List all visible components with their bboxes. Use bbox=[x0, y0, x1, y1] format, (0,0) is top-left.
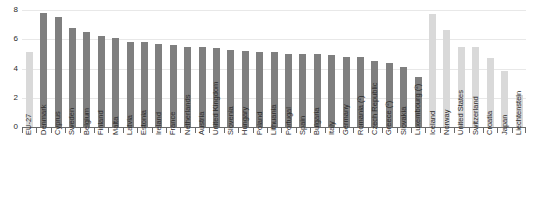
x-tick-label: Slovenia bbox=[227, 106, 235, 135]
x-axis-slot: Czech Republic bbox=[368, 128, 382, 206]
x-tick-label: Portugal bbox=[285, 107, 293, 135]
bar-slot bbox=[325, 10, 339, 127]
x-tick-label: Netherlands bbox=[184, 95, 192, 135]
x-axis-slot: Ireland bbox=[152, 128, 166, 206]
x-tick-label: Poland bbox=[256, 112, 264, 135]
x-axis-slot: Romania (²) bbox=[353, 128, 367, 206]
x-axis-slot: Finland bbox=[94, 128, 108, 206]
x-axis-slot: Hungary bbox=[238, 128, 252, 206]
x-tick-label: Hungary bbox=[242, 107, 250, 135]
bar-slot bbox=[51, 10, 65, 127]
x-tick bbox=[253, 128, 254, 133]
x-tick bbox=[325, 128, 326, 133]
x-tick bbox=[440, 128, 441, 133]
x-tick-label: Greece (²) bbox=[386, 101, 394, 135]
bar-chart: 02468 EU-27DenmarkCyprusSwedenBelgiumFin… bbox=[0, 0, 534, 206]
bar bbox=[112, 38, 119, 127]
x-tick-label: Latvia bbox=[126, 115, 134, 135]
x-tick bbox=[267, 128, 268, 133]
x-axis-slot: Malta bbox=[108, 128, 122, 206]
x-tick bbox=[180, 128, 181, 133]
x-tick bbox=[137, 128, 138, 133]
x-axis: EU-27DenmarkCyprusSwedenBelgiumFinlandMa… bbox=[22, 128, 526, 206]
x-tick-label: Bulgaria bbox=[314, 107, 322, 135]
x-tick bbox=[454, 128, 455, 133]
x-axis-slot: Austria bbox=[195, 128, 209, 206]
x-axis-slot: France bbox=[166, 128, 180, 206]
x-tick-label: Belgium bbox=[83, 108, 91, 135]
x-axis-slot: Switzerland bbox=[469, 128, 483, 206]
bar-slot bbox=[108, 10, 122, 127]
x-axis-slot: Greece (²) bbox=[382, 128, 396, 206]
x-tick bbox=[238, 128, 239, 133]
x-tick bbox=[411, 128, 412, 133]
x-axis-slot: Sweden bbox=[65, 128, 79, 206]
bar bbox=[328, 55, 335, 127]
x-axis-slot: Lithuania bbox=[267, 128, 281, 206]
x-tick bbox=[94, 128, 95, 133]
x-axis-slot: Italy bbox=[325, 128, 339, 206]
x-tick bbox=[281, 128, 282, 133]
x-tick bbox=[51, 128, 52, 133]
x-tick bbox=[525, 128, 526, 133]
x-axis-slot: Luxembourg (²) bbox=[411, 128, 425, 206]
x-tick bbox=[108, 128, 109, 133]
x-tick-label: France bbox=[170, 112, 178, 135]
bar-slot bbox=[123, 10, 137, 127]
x-axis-slot: Norway bbox=[440, 128, 454, 206]
y-tick-label: 8 bbox=[14, 6, 18, 14]
x-tick bbox=[497, 128, 498, 133]
x-tick bbox=[123, 128, 124, 133]
bar-slot bbox=[296, 10, 310, 127]
bar-slot bbox=[195, 10, 209, 127]
x-axis-slot: Denmark bbox=[36, 128, 50, 206]
x-tick-label: Spain bbox=[299, 116, 307, 135]
x-tick-label: Czech Republic bbox=[371, 82, 379, 135]
x-tick-label: Iceland bbox=[429, 111, 437, 135]
bar-slot bbox=[253, 10, 267, 127]
x-axis-slot: Japan bbox=[497, 128, 511, 206]
x-tick bbox=[65, 128, 66, 133]
x-axis-slot: United Kingdom bbox=[209, 128, 223, 206]
x-tick bbox=[512, 128, 513, 133]
bar-slot bbox=[166, 10, 180, 127]
x-tick bbox=[353, 128, 354, 133]
x-tick-label: Luxembourg (²) bbox=[414, 84, 422, 135]
y-axis: 02468 bbox=[0, 0, 22, 140]
x-tick-label: Germany bbox=[342, 104, 350, 135]
x-axis-slot: Spain bbox=[296, 128, 310, 206]
bar-slot bbox=[152, 10, 166, 127]
bar-slot bbox=[483, 10, 497, 127]
x-tick bbox=[209, 128, 210, 133]
x-tick bbox=[382, 128, 383, 133]
x-axis-slot: Bulgaria bbox=[310, 128, 324, 206]
bar-slot bbox=[497, 10, 511, 127]
y-tick-label: 2 bbox=[14, 94, 18, 102]
x-tick bbox=[195, 128, 196, 133]
x-tick-label: EU-27 bbox=[25, 114, 33, 135]
x-tick bbox=[397, 128, 398, 133]
x-tick-label: Norway bbox=[443, 110, 451, 135]
x-tick bbox=[36, 128, 37, 133]
x-axis-slot: Latvia bbox=[123, 128, 137, 206]
x-tick-label: Croatia bbox=[486, 111, 494, 135]
x-tick-label: Malta bbox=[112, 117, 120, 135]
x-axis-slot: Slovenia bbox=[224, 128, 238, 206]
x-tick-label: Estonia bbox=[141, 110, 149, 135]
x-tick bbox=[483, 128, 484, 133]
x-tick-label: Cyprus bbox=[54, 111, 62, 135]
x-tick-label: United States bbox=[458, 90, 466, 135]
x-tick bbox=[166, 128, 167, 133]
x-tick bbox=[368, 128, 369, 133]
x-axis-slot: Portugal bbox=[281, 128, 295, 206]
bar-slot bbox=[22, 10, 36, 127]
x-tick-label: Sweden bbox=[69, 108, 77, 135]
x-axis-slot: Liechtenstein bbox=[512, 128, 526, 206]
x-tick bbox=[224, 128, 225, 133]
x-axis-slot: Netherlands bbox=[180, 128, 194, 206]
bar-slot bbox=[425, 10, 439, 127]
x-tick-label: Ireland bbox=[155, 112, 163, 135]
x-axis-slot: Slovakia bbox=[397, 128, 411, 206]
x-tick bbox=[339, 128, 340, 133]
x-tick-label: Finland bbox=[97, 110, 105, 135]
